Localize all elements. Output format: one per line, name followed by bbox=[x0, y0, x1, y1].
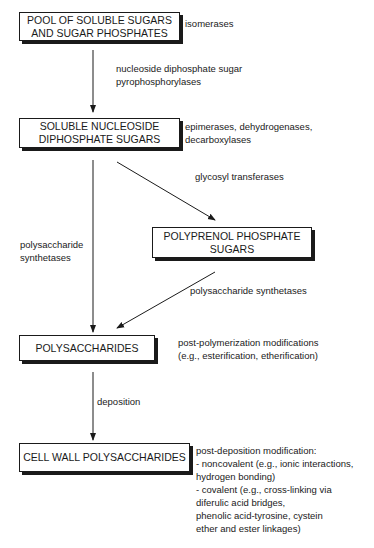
node-pool-line2: AND SUGAR PHOSPHATES bbox=[27, 27, 172, 40]
node-ndp-line2: DIPHOSPHATE SUGARS bbox=[39, 133, 161, 146]
node-pool-line1: POOL OF SOLUBLE SUGARS bbox=[27, 14, 172, 27]
node-polyprenol-line2: SUGARS bbox=[164, 243, 301, 256]
label-epimerases: epimerases, dehydrogenases, decarboxylas… bbox=[185, 120, 312, 146]
label-post-polymerization: post-polymerization modifications (e.g.,… bbox=[178, 336, 318, 362]
label-post-deposition: post-deposition modification: - noncoval… bbox=[196, 444, 353, 535]
node-nucleoside-diphosphate-sugars: SOLUBLE NUCLEOSIDE DIPHOSPHATE SUGARS bbox=[19, 118, 180, 148]
node-polyprenol-phosphate-sugars: POLYPRENOL PHOSPHATE SUGARS bbox=[152, 227, 312, 258]
label-deposition: deposition bbox=[97, 395, 140, 408]
label-polysaccharide-synthetases-right: polysaccharide synthetases bbox=[190, 284, 307, 297]
label-pyrophosphorylases: nucleoside diphosphate sugar pyrophospho… bbox=[116, 62, 242, 88]
node-polyprenol-line1: POLYPRENOL PHOSPHATE bbox=[164, 230, 301, 243]
label-isomerases: isomerases bbox=[185, 17, 234, 30]
label-polysaccharide-synthetases-left: polysaccharide synthetases bbox=[20, 238, 83, 264]
node-polysaccharides-line1: POLYSACCHARIDES bbox=[35, 342, 138, 355]
node-cell-wall-polysaccharides: CELL WALL POLYSACCHARIDES bbox=[19, 443, 190, 472]
node-polysaccharides: POLYSACCHARIDES bbox=[19, 335, 155, 361]
node-cellwall-line1: CELL WALL POLYSACCHARIDES bbox=[23, 451, 186, 464]
node-ndp-line1: SOLUBLE NUCLEOSIDE bbox=[39, 120, 161, 133]
label-glycosyl-transferases: glycosyl transferases bbox=[195, 170, 284, 183]
node-pool-soluble-sugars: POOL OF SOLUBLE SUGARS AND SUGAR PHOSPHA… bbox=[19, 12, 180, 41]
arrow-polyprenol-to-polysaccharides bbox=[117, 272, 215, 328]
